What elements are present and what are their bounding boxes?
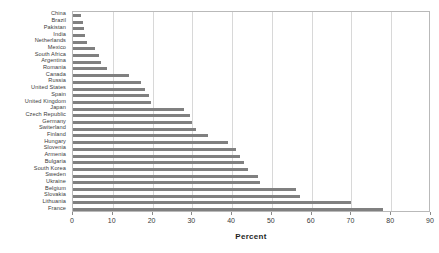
- x-tick-mark: [152, 212, 153, 215]
- bar: [73, 94, 149, 97]
- bar: [73, 88, 145, 91]
- bar-row: [73, 41, 431, 44]
- bar: [73, 114, 190, 117]
- bar-row: [73, 14, 431, 17]
- category-label: Pakistan: [44, 25, 66, 31]
- bar-row: [73, 54, 431, 57]
- bar-row: [73, 148, 431, 151]
- x-tick-mark: [430, 212, 431, 215]
- bar-row: [73, 188, 431, 191]
- category-label: France: [48, 206, 66, 212]
- x-tick-mark: [72, 212, 73, 215]
- bar-row: [73, 47, 431, 50]
- bar-row: [73, 74, 431, 77]
- category-label: Armenia: [44, 152, 66, 158]
- x-tick-mark: [271, 212, 272, 215]
- bar: [73, 121, 192, 124]
- category-label: Lithuania: [42, 199, 66, 205]
- bar: [73, 195, 300, 198]
- bar: [73, 61, 101, 64]
- y-axis-category-labels: ChinaBrazilPakistanIndiaNetherlandsMexic…: [0, 11, 69, 212]
- bar-row: [73, 21, 431, 24]
- bar: [73, 168, 248, 171]
- bar: [73, 34, 85, 37]
- bar-row: [73, 27, 431, 30]
- bar: [73, 175, 258, 178]
- category-label: Sweden: [45, 172, 66, 178]
- category-label: Spain: [51, 92, 66, 98]
- bar-row: [73, 134, 431, 137]
- bar-row: [73, 81, 431, 84]
- category-label: Bulgaria: [45, 159, 66, 165]
- x-tick-label: 50: [267, 217, 275, 225]
- bar-row: [73, 141, 431, 144]
- gridline-90: [431, 12, 432, 211]
- bar-row: [73, 195, 431, 198]
- bars-layer: [73, 12, 429, 211]
- bar-row: [73, 128, 431, 131]
- category-label: Czech Republic: [25, 112, 66, 118]
- bar-row: [73, 208, 431, 211]
- bar: [73, 74, 129, 77]
- x-tick-label: 80: [386, 217, 394, 225]
- bar: [73, 108, 184, 111]
- bar-row: [73, 67, 431, 70]
- category-label: Netherlands: [35, 38, 66, 44]
- x-axis: 0102030405060708090: [72, 212, 430, 232]
- category-label: Japan: [50, 105, 66, 111]
- bar-row: [73, 61, 431, 64]
- x-tick-mark: [390, 212, 391, 215]
- category-label: Finland: [47, 132, 66, 138]
- bar: [73, 81, 141, 84]
- category-label: Romania: [43, 65, 66, 71]
- bar: [73, 161, 244, 164]
- bar-row: [73, 168, 431, 171]
- bar-row: [73, 114, 431, 117]
- plot-area: [72, 11, 430, 212]
- bar-row: [73, 121, 431, 124]
- x-tick-label: 60: [307, 217, 315, 225]
- x-tick-mark: [350, 212, 351, 215]
- bar-row: [73, 94, 431, 97]
- x-tick-label: 40: [227, 217, 235, 225]
- bar-row: [73, 201, 431, 204]
- x-tick-label: 20: [148, 217, 156, 225]
- bar: [73, 148, 236, 151]
- bar: [73, 208, 383, 211]
- bar-row: [73, 155, 431, 158]
- category-label: Ukraine: [46, 179, 66, 185]
- bar: [73, 14, 81, 17]
- bar: [73, 181, 260, 184]
- bar: [73, 27, 84, 30]
- bar: [73, 155, 240, 158]
- bar: [73, 47, 95, 50]
- x-tick-label: 30: [187, 217, 195, 225]
- category-label: United States: [31, 85, 66, 91]
- x-tick-mark: [231, 212, 232, 215]
- bar: [73, 188, 296, 191]
- bar-row: [73, 161, 431, 164]
- bar-row: [73, 175, 431, 178]
- bar-row: [73, 108, 431, 111]
- x-tick-label: 10: [108, 217, 116, 225]
- bar: [73, 141, 228, 144]
- bar-row: [73, 88, 431, 91]
- x-tick-label: 70: [347, 217, 355, 225]
- x-tick-mark: [191, 212, 192, 215]
- x-tick-label: 90: [426, 217, 434, 225]
- bar-row: [73, 101, 431, 104]
- bar: [73, 134, 208, 137]
- category-label: Brazil: [51, 18, 66, 24]
- x-tick-mark: [112, 212, 113, 215]
- bar: [73, 101, 151, 104]
- bar: [73, 21, 83, 24]
- x-axis-title: Percent: [72, 232, 430, 241]
- x-tick-mark: [311, 212, 312, 215]
- bar: [73, 54, 99, 57]
- x-tick-label: 0: [70, 217, 74, 225]
- bar-chart: ChinaBrazilPakistanIndiaNetherlandsMexic…: [0, 0, 439, 253]
- bar-row: [73, 181, 431, 184]
- bar: [73, 67, 107, 70]
- bar-row: [73, 34, 431, 37]
- bar: [73, 41, 87, 44]
